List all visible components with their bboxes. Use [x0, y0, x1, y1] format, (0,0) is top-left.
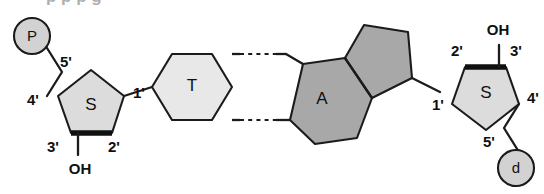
sugar-label-right: S — [480, 83, 491, 102]
phosphate-label-right: d — [512, 159, 520, 176]
hydroxyl-label-left: OH — [69, 160, 92, 177]
carbon-label-c5-right: 5' — [483, 133, 495, 150]
carbon-label-c1-left: 1' — [133, 84, 145, 101]
carbon-label-c4-right: 4' — [527, 89, 539, 106]
bond-adenine-to-c1-right — [412, 78, 440, 92]
carbon-label-c3-left: 3' — [47, 138, 59, 155]
carbon-label-c3-right: 3' — [510, 42, 522, 59]
sugar-label-left: S — [85, 95, 96, 114]
thymine-label: T — [187, 76, 197, 95]
carbon-label-c2-left: 2' — [108, 138, 120, 155]
carbon-label-c5-left: 5' — [60, 53, 72, 70]
carbon-label-c2-right: 2' — [451, 42, 463, 59]
hydroxyl-label-right: OH — [487, 21, 510, 38]
carbon-label-c4-left: 4' — [27, 91, 39, 108]
carbon-label-c1-right: 1' — [432, 96, 444, 113]
hydrogen-bond-upper-link — [286, 54, 303, 64]
diagram-canvas: P S 5' 4' 3' 2' 1' OH T — [0, 0, 544, 194]
phosphate-label-left: P — [27, 27, 37, 44]
adenine-label: A — [316, 89, 328, 108]
dna-base-pair-figure: p p p g P S 5' 4' 3' 2' 1' OH T — [0, 0, 544, 194]
